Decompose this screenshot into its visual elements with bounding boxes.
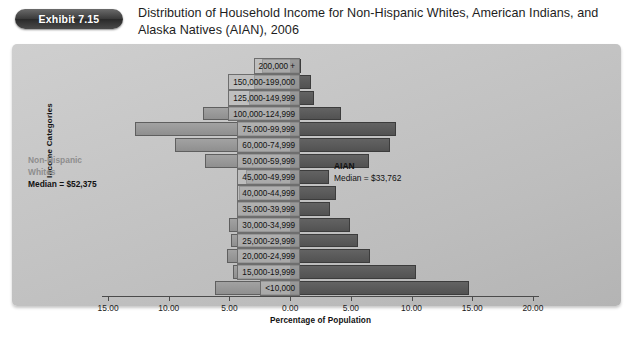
legend-non-hispanic-whites: Non-Hispanic Whites Median = $52,375	[28, 155, 118, 191]
x-tick-label: 20.00	[522, 303, 543, 313]
x-tick	[229, 296, 230, 301]
x-tick-label: 15.00	[98, 303, 119, 313]
chart-row: 25,000-29,999	[102, 233, 539, 249]
category-label: 60,000-74,999	[237, 137, 300, 153]
x-tick-label: 10.00	[401, 303, 422, 313]
bar-aian	[290, 281, 468, 295]
x-tick	[472, 296, 473, 301]
category-label: 20,000-24,999	[237, 248, 300, 264]
x-axis-title: Percentage of Population	[102, 316, 539, 325]
legend-left-name-line1: Non-Hispanic	[28, 155, 118, 167]
x-tick-label: 0.00	[282, 303, 298, 313]
bar-aian	[290, 138, 390, 152]
x-tick	[169, 296, 170, 301]
category-label: 125,000-149,999	[228, 90, 300, 106]
category-label: 100,000-124,999	[228, 106, 300, 122]
category-label: 200,000 +	[254, 58, 301, 74]
chart-row: 45,000-49,999	[102, 169, 539, 185]
x-tick	[108, 296, 109, 301]
category-label: 150,000-199,000	[228, 74, 300, 90]
chart-row: 75,000-99,999	[102, 121, 539, 137]
legend-left-name-line2: Whites	[28, 167, 118, 179]
chart-row: 200,000 +	[102, 58, 539, 74]
chart-panel: Income Categories 200,000 +150,000-199,0…	[12, 44, 621, 306]
exhibit-figure: Exhibit 7.15 Distribution of Household I…	[0, 0, 633, 357]
chart-row: 150,000-199,000	[102, 74, 539, 90]
exhibit-badge: Exhibit 7.15	[15, 9, 123, 29]
x-tick-label: 15.00	[462, 303, 483, 313]
chart-row: 60,000-74,999	[102, 137, 539, 153]
legend-aian: AIAN Median = $33,762	[334, 161, 444, 184]
x-tick-label: 5.00	[343, 303, 359, 313]
bar-aian	[290, 265, 416, 279]
chart-row: 40,000-44,999	[102, 185, 539, 201]
chart-row: <10,000	[102, 280, 539, 296]
bar-aian	[290, 234, 358, 248]
chart-row: 125,000-149,999	[102, 90, 539, 106]
legend-right-median: Median = $33,762	[334, 173, 444, 185]
category-label: 75,000-99,999	[237, 121, 300, 137]
category-label: 50,000-59,999	[237, 153, 300, 169]
bar-aian	[290, 122, 396, 136]
legend-left-median: Median = $52,375	[28, 179, 118, 191]
x-axis-line	[102, 296, 539, 297]
chart-row: 50,000-59,999	[102, 153, 539, 169]
category-label: 40,000-44,999	[237, 185, 300, 201]
category-label: 15,000-19,999	[237, 264, 300, 280]
x-tick	[412, 296, 413, 301]
x-tick	[351, 296, 352, 301]
bar-aian	[290, 249, 370, 263]
category-label: <10,000	[260, 280, 300, 296]
chart-row: 30,000-34,999	[102, 217, 539, 233]
category-label: 35,000-39,999	[237, 201, 300, 217]
chart-row: 35,000-39,999	[102, 201, 539, 217]
category-label: 25,000-29,999	[237, 233, 300, 249]
page-title: Distribution of Household Income for Non…	[138, 5, 608, 39]
legend-right-name: AIAN	[334, 161, 444, 173]
figure-header: Exhibit 7.15 Distribution of Household I…	[0, 0, 633, 48]
x-tick-label: 5.00	[221, 303, 237, 313]
x-tick-label: 10.00	[158, 303, 179, 313]
category-label: 30,000-34,999	[237, 217, 300, 233]
chart-row: 20,000-24,999	[102, 248, 539, 264]
x-tick	[533, 296, 534, 301]
plot-area: 200,000 +150,000-199,000125,000-149,9991…	[102, 58, 539, 296]
chart-row: 100,000-124,999	[102, 106, 539, 122]
chart-row: 15,000-19,999	[102, 264, 539, 280]
category-label: 45,000-49,999	[237, 169, 300, 185]
